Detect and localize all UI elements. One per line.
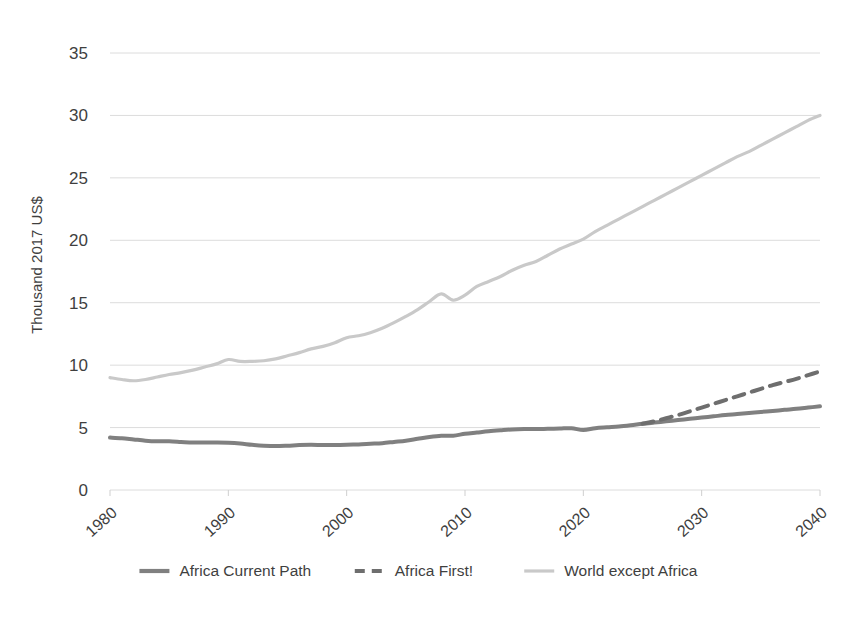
data-series [110, 115, 820, 446]
x-tick-label: 2040 [792, 504, 830, 541]
y-tick-label: 5 [79, 419, 88, 438]
y-tick-label: 0 [79, 481, 88, 500]
legend-item[interactable]: World except Africa [524, 562, 698, 579]
legend-label: Africa First! [395, 562, 473, 579]
y-tick-label: 15 [69, 294, 88, 313]
legend-label: World except Africa [564, 562, 698, 579]
y-tick-label: 20 [69, 231, 88, 250]
gridlines [110, 53, 820, 490]
x-tick-label: 2010 [437, 504, 475, 541]
legend-item[interactable]: Africa Current Path [139, 562, 311, 579]
x-tick-label: 2020 [556, 504, 594, 541]
x-tick-label: 2030 [674, 504, 712, 541]
x-axis-tick-labels: 1980199020002010202020302040 [82, 504, 830, 541]
x-tick-label: 1990 [201, 504, 239, 541]
series-line-world-except-africa [110, 115, 820, 380]
y-tick-label: 35 [69, 44, 88, 63]
legend-label: Africa Current Path [179, 562, 311, 579]
y-axis-tick-labels: 35302520151050 [69, 44, 88, 500]
y-axis-title: Thousand 2017 US$ [28, 196, 45, 334]
chart-legend: Africa Current PathAfrica First!World ex… [139, 562, 697, 579]
legend-item[interactable]: Africa First! [355, 562, 473, 579]
x-tick-label: 1980 [82, 504, 120, 541]
line-chart: 35302520151050 1980199020002010202020302… [0, 0, 849, 620]
series-line-africa-current-path [110, 406, 820, 446]
chart-container: 35302520151050 1980199020002010202020302… [0, 0, 849, 620]
y-tick-label: 30 [69, 106, 88, 125]
y-tick-label: 25 [69, 169, 88, 188]
x-axis-ticks [110, 490, 820, 496]
y-tick-label: 10 [69, 356, 88, 375]
x-tick-label: 2000 [319, 504, 357, 541]
